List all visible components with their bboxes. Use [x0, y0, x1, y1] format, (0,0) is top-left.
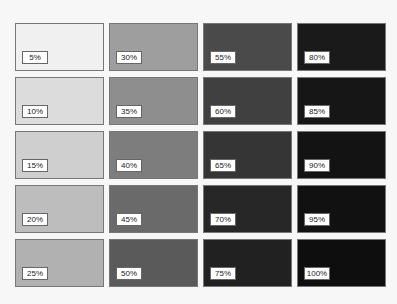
gray-swatch: 15%	[15, 131, 104, 179]
gray-swatch: 95%	[297, 185, 386, 233]
gray-swatch: 35%	[109, 77, 198, 125]
gray-swatch: 10%	[15, 77, 104, 125]
swatch-percent-label: 75%	[210, 267, 236, 280]
gray-swatch: 20%	[15, 185, 104, 233]
swatch-percent-label: 95%	[304, 213, 330, 226]
swatch-percent-label: 50%	[116, 267, 142, 280]
swatch-percent-label: 80%	[304, 51, 330, 64]
gray-swatch: 45%	[109, 185, 198, 233]
swatch-percent-label: 100%	[304, 267, 330, 280]
gray-swatch: 25%	[15, 239, 104, 287]
swatch-percent-label: 15%	[22, 159, 48, 172]
gray-swatch: 55%	[203, 23, 292, 71]
gray-swatch: 70%	[203, 185, 292, 233]
gray-swatch: 30%	[109, 23, 198, 71]
grayscale-swatch-grid: 5%10%15%20%25%30%35%40%45%50%55%60%65%70…	[15, 23, 386, 287]
gray-swatch: 40%	[109, 131, 198, 179]
gray-swatch: 90%	[297, 131, 386, 179]
swatch-percent-label: 25%	[22, 267, 48, 280]
swatch-percent-label: 70%	[210, 213, 236, 226]
swatch-percent-label: 10%	[22, 105, 48, 118]
gray-swatch: 65%	[203, 131, 292, 179]
swatch-percent-label: 60%	[210, 105, 236, 118]
swatch-percent-label: 45%	[116, 213, 142, 226]
gray-swatch: 75%	[203, 239, 292, 287]
gray-swatch: 100%	[297, 239, 386, 287]
swatch-percent-label: 55%	[210, 51, 236, 64]
gray-swatch: 80%	[297, 23, 386, 71]
swatch-percent-label: 65%	[210, 159, 236, 172]
gray-swatch: 85%	[297, 77, 386, 125]
gray-swatch: 5%	[15, 23, 104, 71]
swatch-percent-label: 40%	[116, 159, 142, 172]
swatch-percent-label: 20%	[22, 213, 48, 226]
swatch-percent-label: 35%	[116, 105, 142, 118]
gray-swatch: 50%	[109, 239, 198, 287]
swatch-percent-label: 5%	[22, 51, 48, 64]
swatch-percent-label: 30%	[116, 51, 142, 64]
swatch-percent-label: 85%	[304, 105, 330, 118]
gray-swatch: 60%	[203, 77, 292, 125]
swatch-percent-label: 90%	[304, 159, 330, 172]
